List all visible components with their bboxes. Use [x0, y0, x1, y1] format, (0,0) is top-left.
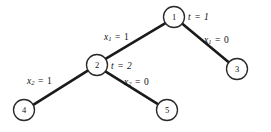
decision-tree-figure: 1 2 3 4 5 x1=1 x1=0: [0, 0, 271, 132]
node-4[interactable]: 4: [14, 100, 35, 121]
node-2-annotation-op: =: [117, 61, 123, 71]
edge-label-x2-eq-1-sub: 2: [31, 79, 35, 86]
edge-label-x2-eq-0-value: 0: [144, 77, 149, 87]
node-1-label: 1: [172, 12, 176, 22]
node-3-label: 3: [235, 64, 239, 74]
edge-label-x1-eq-1-sub: 1: [108, 35, 111, 42]
node-2-annotation-t: t=2: [111, 61, 132, 71]
tree-diagram-canvas: 1 2 3 4 5 x1=1 x1=0: [0, 0, 271, 132]
node-1-annotation-var: t: [188, 12, 191, 22]
edge-label-x1-eq-0-sub: 1: [208, 38, 211, 45]
node-1-annotation-value: 1: [204, 12, 209, 22]
node-2[interactable]: 2: [87, 55, 108, 76]
edge-label-x2-eq-1-value: 1: [47, 76, 52, 86]
node-1[interactable]: 1: [164, 7, 185, 28]
edge-label-x1-eq-1-value: 1: [124, 32, 129, 42]
edge-label-x2-eq-1: x2=1: [26, 76, 52, 86]
edge-2-to-5: [105, 71, 158, 104]
edge-label-x1-eq-0-value: 0: [224, 35, 229, 45]
edge-label-x2-eq-0: x2=0: [123, 77, 149, 87]
node-2-annotation-var: t: [111, 61, 114, 71]
edge-labels-group: x1=1 x1=0 x2=1 x2=0: [26, 32, 229, 87]
edge-label-x1-eq-0: x1=0: [203, 35, 229, 45]
node-2-annotation-value: 2: [127, 61, 132, 71]
node-5[interactable]: 5: [157, 100, 178, 121]
node-3[interactable]: 3: [227, 59, 248, 80]
node-5-label: 5: [165, 105, 169, 115]
node-2-label: 2: [95, 60, 99, 70]
node-1-annotation-t: t=1: [188, 12, 209, 22]
node-1-annotation-op: =: [194, 12, 200, 22]
edge-label-x1-eq-1: x1=1: [103, 32, 129, 42]
